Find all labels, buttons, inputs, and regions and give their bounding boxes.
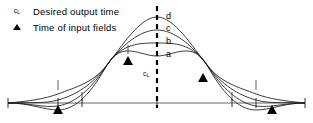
triangle-marker-left-inner bbox=[123, 56, 133, 65]
legend-label-input-fields: Time of input fields bbox=[33, 22, 116, 33]
curve-label-c: c bbox=[166, 24, 171, 33]
legend-item-input-fields: Time of input fields bbox=[8, 22, 116, 33]
curve-label-a: a bbox=[166, 50, 171, 59]
center-line-label: cL bbox=[143, 70, 149, 79]
chart-canvas bbox=[0, 0, 313, 123]
c-sub-l-symbol: cL bbox=[8, 6, 26, 17]
legend-label-desired-output-time: Desired output time bbox=[33, 6, 119, 17]
figure-container: cL Desired output time Time of input fie… bbox=[0, 0, 313, 123]
triangle-marker-icon bbox=[8, 23, 26, 32]
triangle-marker-right-inner bbox=[198, 73, 208, 82]
legend-item-desired-output-time: cL Desired output time bbox=[8, 6, 119, 17]
curve-c bbox=[8, 30, 305, 103]
input-field-markers bbox=[53, 56, 277, 114]
curve-label-d: d bbox=[166, 12, 171, 21]
curve-label-b: b bbox=[166, 37, 171, 46]
